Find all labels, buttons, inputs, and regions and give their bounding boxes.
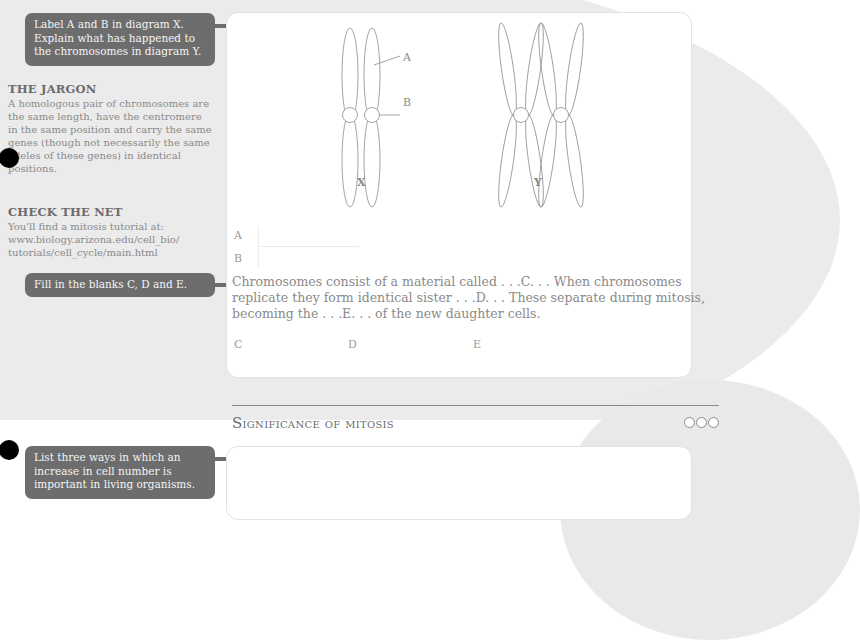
answer-label-a: A [234, 229, 242, 242]
difficulty-indicator [684, 417, 719, 428]
jargon-text: A homologous pair of chromosomes are the… [8, 97, 213, 175]
answer-field-b[interactable] [258, 247, 359, 267]
question-callout-1: Label A and B in diagram X. Explain what… [25, 13, 215, 66]
question-text: Fill in the blanks C, D and E. [34, 278, 187, 290]
bullet-icon [0, 148, 19, 168]
section-divider [232, 405, 719, 406]
callout-connector [215, 283, 226, 287]
difficulty-dot-icon [708, 417, 719, 428]
callout-connector [215, 24, 226, 28]
answer-card-2[interactable] [226, 446, 692, 520]
answer-label-d[interactable]: D [348, 338, 357, 351]
answer-field-a[interactable] [258, 226, 359, 247]
chromosome-diagram [226, 12, 690, 212]
diagram-caption-x: X [357, 176, 366, 189]
difficulty-dot-icon [696, 417, 707, 428]
diagram-caption-y: Y [534, 176, 542, 189]
section-title-rest: ignificance of mitosis [243, 415, 394, 431]
jargon-heading: THE JARGON [8, 82, 213, 96]
section-title-initial: S [232, 414, 243, 432]
answer-label-e[interactable]: E [473, 338, 481, 351]
question-callout-3: List three ways in which an increase in … [25, 446, 215, 499]
question-text: List three ways in which an increase in … [34, 451, 195, 490]
answer-label-b: B [234, 252, 242, 265]
diagram-label-b: B [403, 96, 411, 109]
fill-in-paragraph: Chromosomes consist of a material called… [232, 274, 712, 322]
jargon-box: THE JARGON A homologous pair of chromoso… [8, 82, 213, 175]
section-title: Significance of mitosis [232, 414, 394, 432]
check-net-box: CHECK THE NET You'll find a mitosis tuto… [8, 205, 213, 259]
check-net-heading: CHECK THE NET [8, 205, 213, 219]
question-callout-2: Fill in the blanks C, D and E. [25, 273, 215, 297]
check-net-text: You'll find a mitosis tutorial at: www.b… [8, 220, 213, 259]
answer-label-c[interactable]: C [234, 338, 242, 351]
question-text: Label A and B in diagram X. Explain what… [34, 18, 201, 57]
difficulty-dot-icon [684, 417, 695, 428]
bullet-icon [0, 440, 19, 460]
diagram-label-a: A [403, 51, 411, 64]
callout-connector [215, 457, 226, 461]
